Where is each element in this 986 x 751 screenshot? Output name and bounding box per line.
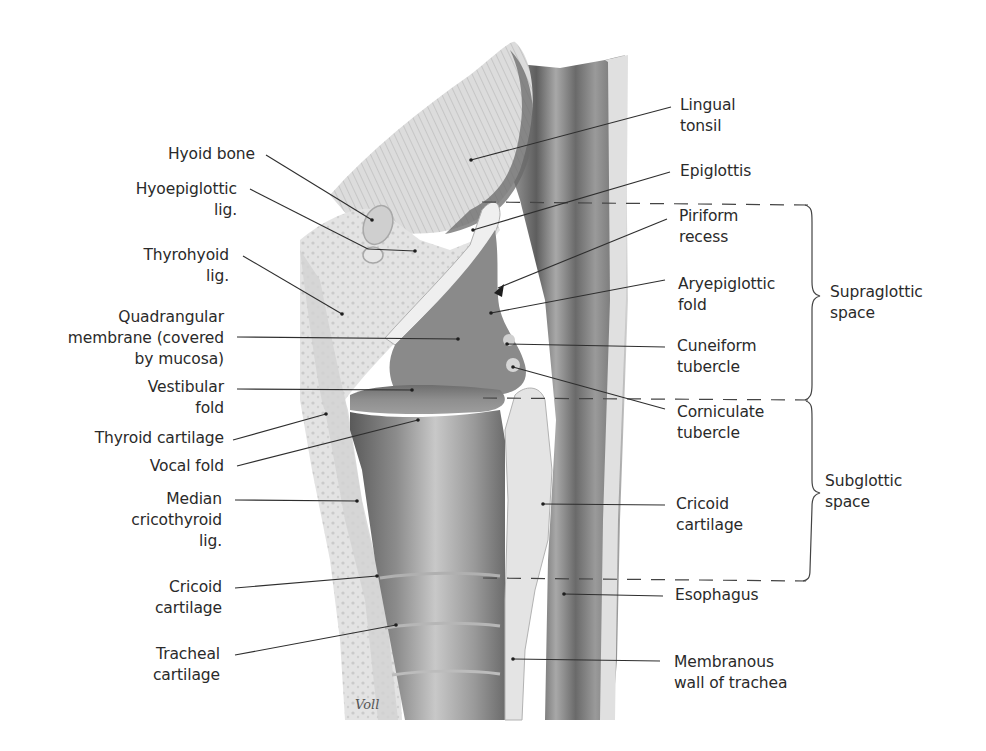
label-thyroid-cartilage: Thyroid cartilage: [95, 428, 224, 449]
label-thyrohyoid-lig: Thyrohyoid lig.: [143, 245, 229, 287]
label-lingual-tonsil: Lingual tonsil: [680, 95, 736, 137]
label-cricoid-cartilage-right: Cricoid cartilage: [676, 494, 743, 536]
label-aryepiglottic-fold: Aryepiglottic fold: [678, 274, 775, 316]
label-subglottic-space: Subglottic space: [825, 471, 902, 513]
label-quadrangular-membrane: Quadrangular membrane (covered by mucosa…: [68, 307, 224, 370]
label-epiglottis: Epiglottis: [680, 161, 751, 182]
label-cricoid-cartilage-left: Cricoid cartilage: [155, 577, 222, 619]
label-hyoid-bone: Hyoid bone: [168, 144, 255, 165]
label-vestibular-fold: Vestibular fold: [148, 377, 224, 419]
label-membranous-wall-of-trachea: Membranous wall of trachea: [674, 652, 787, 694]
tongue-shape: [330, 42, 533, 234]
larynx-diagram: Voll: [0, 0, 986, 751]
signature: Voll: [355, 697, 379, 712]
label-supraglottic-space: Supraglottic space: [830, 282, 923, 324]
subglottic-brace: [803, 401, 820, 581]
supraglottic-brace: [805, 205, 820, 400]
label-hyoepiglottic-lig: Hyoepiglottic lig.: [136, 179, 237, 221]
label-corniculate-tubercle: Corniculate tubercle: [677, 402, 764, 444]
label-tracheal-cartilage: Tracheal cartilage: [153, 644, 220, 686]
label-vocal-fold: Vocal fold: [150, 456, 224, 477]
label-piriform-recess: Piriform recess: [679, 206, 738, 248]
label-cuneiform-tubercle: Cuneiform tubercle: [677, 336, 757, 378]
label-esophagus: Esophagus: [675, 585, 758, 606]
larynx-illustration: Voll: [0, 0, 986, 751]
label-median-cricothyroid-lig: Median cricothyroid lig.: [131, 489, 222, 552]
cricoid-lamina-shape: [505, 388, 552, 720]
